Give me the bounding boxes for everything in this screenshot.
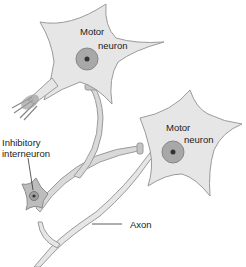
interneuron-branch <box>74 86 103 178</box>
interneuron-axon <box>36 146 138 212</box>
motor-neuron-right-label2: neuron <box>184 134 214 145</box>
motor-neuron-top-body <box>40 4 164 104</box>
motor-neuron-top-label2: neuron <box>98 40 128 51</box>
motor-neuron-top-label1: Motor <box>80 26 104 37</box>
axon-label: Axon <box>130 219 152 230</box>
motor-neuron-right-label1: Motor <box>166 122 190 133</box>
inhibitory-label2: interneuron <box>2 148 50 159</box>
axon-collateral <box>38 222 60 248</box>
inhibitory-label1: Inhibitory <box>2 137 41 148</box>
